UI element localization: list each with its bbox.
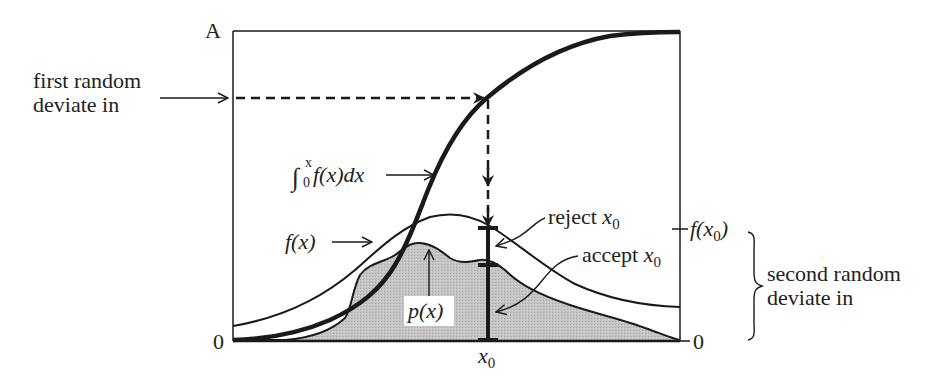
first-random-label-line1: first random (33, 68, 141, 93)
integral-upper-limit: x (305, 155, 312, 170)
fx0-label: f(x0) (690, 216, 728, 244)
second-random-label-line2: deviate in (767, 285, 853, 310)
x0-label: x0 (477, 343, 495, 371)
first-random-label-line2: deviate in (33, 92, 119, 117)
integral-sign: ∫ (290, 163, 301, 193)
right-bottom-label: 0 (693, 329, 704, 354)
reject-label-arrow (496, 218, 545, 246)
reject-label: reject x0 (548, 204, 620, 232)
px-label: p(x) (406, 298, 443, 323)
integral-lower-limit: 0 (303, 175, 310, 190)
second-random-label-line1: second random (767, 261, 901, 286)
accept-label: accept x0 (582, 242, 661, 270)
fx-label: f(x) (285, 229, 316, 254)
y-bottom-label: 0 (213, 329, 224, 354)
y-top-label: A (205, 18, 221, 43)
integral-body: f(x)dx (313, 162, 365, 187)
second-deviate-brace (748, 232, 762, 340)
rejection-method-diagram: A 0 0 first random deviate in second ran… (0, 0, 948, 386)
